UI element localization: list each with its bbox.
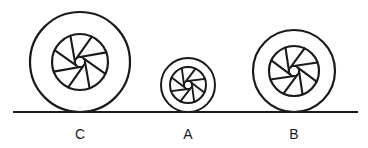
spoke [80, 52, 106, 57]
spoke [299, 71, 303, 94]
label-a: A [183, 127, 192, 141]
wheel-c [30, 12, 130, 112]
rim-outline [52, 34, 108, 90]
tire-outline [30, 12, 130, 112]
tire-outline [253, 30, 335, 112]
spoke [54, 67, 80, 72]
spoke [85, 62, 90, 88]
spoke [70, 36, 75, 62]
rim-outline [269, 46, 319, 96]
rim-outline [170, 67, 206, 103]
spoke [188, 79, 205, 81]
spoke [271, 76, 294, 80]
label-c: C [75, 127, 85, 141]
spoke [285, 48, 289, 71]
spoke [171, 89, 188, 91]
spoke [192, 85, 194, 102]
wheel-a [161, 58, 215, 112]
wheel-b [253, 30, 335, 112]
label-b: B [289, 127, 298, 141]
spoke [294, 62, 317, 66]
spoke [182, 68, 184, 85]
